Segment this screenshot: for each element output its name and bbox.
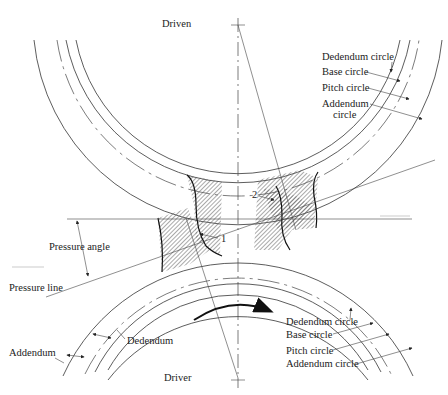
driver-dedendum-circle-label: Dedendum circle bbox=[286, 316, 358, 327]
driver-gear-labels: Dedendum circle Base circle Pitch circle… bbox=[286, 308, 412, 369]
driven-dedendum-circle-label: Dedendum circle bbox=[322, 51, 394, 62]
driven-pitch-circle-label: Pitch circle bbox=[322, 82, 370, 93]
driver-pitch-circle-label: Pitch circle bbox=[286, 345, 334, 356]
driven-addendum-circle-label: Addendum bbox=[322, 98, 369, 109]
driven-title: Driven bbox=[162, 18, 192, 29]
pressure-line bbox=[46, 160, 435, 297]
pressure-angle-label: Pressure angle bbox=[49, 241, 110, 252]
driver-title: Driver bbox=[164, 372, 192, 383]
driven-addendum-circle-label-line2: circle bbox=[333, 109, 357, 120]
driven-gear-labels: Dedendum circle Base circle Pitch circle… bbox=[322, 51, 422, 120]
dedendum-label: Dedendum bbox=[127, 335, 173, 346]
driver-base-circle-label: Base circle bbox=[286, 329, 333, 340]
driver-addendum-circle-label: Addendum circle bbox=[286, 358, 359, 369]
leader-line bbox=[370, 104, 422, 119]
leader-line bbox=[391, 62, 392, 72]
contact-point-2-label: 2 bbox=[252, 189, 257, 200]
pressure-line-label: Pressure line bbox=[9, 282, 63, 293]
dedendum-dimension bbox=[93, 334, 111, 338]
contact-point-1-label: 1 bbox=[221, 233, 226, 244]
left-labels: Pressure angle Pressure line Dedendum Ad… bbox=[9, 241, 173, 363]
leader-line bbox=[366, 72, 400, 81]
addendum-label: Addendum bbox=[9, 347, 56, 358]
addendum-dimension bbox=[67, 355, 84, 357]
gear-mesh-svg: 1 2 Driven Driver Dedendum circle Base c… bbox=[0, 0, 448, 395]
driven-base-circle-label: Base circle bbox=[322, 66, 369, 77]
gear-mesh-diagram: 1 2 Driven Driver Dedendum circle Base c… bbox=[0, 0, 448, 395]
leader-line bbox=[55, 358, 64, 363]
